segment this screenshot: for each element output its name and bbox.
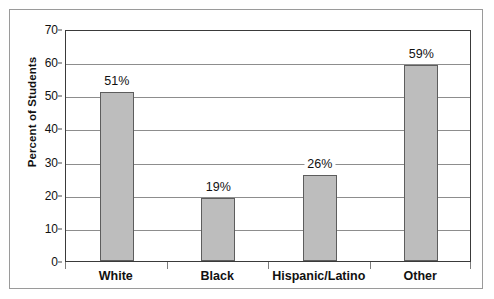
bar-value-label: 26% [304, 158, 335, 171]
x-axis-tick-mark [65, 262, 66, 269]
y-axis-tick-label: 50 [16, 89, 58, 103]
y-axis-tick-labels: 010203040506070 [10, 30, 58, 262]
x-axis-category-label: White [99, 269, 133, 283]
y-axis-tick-label: 0 [16, 255, 58, 269]
bar-slot: 26% [269, 31, 371, 261]
y-axis-tick-label: 20 [16, 189, 58, 203]
y-axis-tick-mark [58, 228, 62, 229]
plot-area: 51%19%26%59% [65, 30, 471, 262]
bar [100, 92, 134, 261]
y-axis-tick-mark [58, 262, 62, 263]
chart-figure: Percent of Students 010203040506070 51%1… [9, 9, 483, 289]
y-axis-tick-mark [58, 162, 62, 163]
bar-slot: 51% [66, 31, 168, 261]
bar [404, 65, 438, 261]
bar-value-label: 19% [203, 181, 234, 194]
y-axis-tick-mark [58, 129, 62, 130]
x-axis-category-labels: WhiteBlackHispanic/LatinoOther [65, 269, 471, 291]
y-axis-tick-label: 10 [16, 222, 58, 236]
bar-slot: 59% [371, 31, 473, 261]
y-axis-tick-label: 60 [16, 56, 58, 70]
bar [201, 198, 235, 261]
x-axis-category-label: Other [404, 269, 437, 283]
x-axis-category-label: Black [201, 269, 234, 283]
x-axis-tick-mark [370, 262, 371, 269]
y-axis-tick-mark [58, 30, 62, 31]
x-axis-tick-marks [65, 262, 471, 269]
bar-slot: 19% [168, 31, 270, 261]
x-axis-tick-mark [167, 262, 168, 269]
y-axis-tick-mark [58, 63, 62, 64]
y-axis-tick-label: 70 [16, 23, 58, 37]
y-axis-tick-mark [58, 96, 62, 97]
x-axis-tick-mark [470, 262, 471, 269]
y-axis-tick-label: 30 [16, 156, 58, 170]
y-axis-tick-mark [58, 195, 62, 196]
y-axis-tick-label: 40 [16, 122, 58, 136]
x-axis-category-label: Hispanic/Latino [272, 269, 365, 283]
bar-value-label: 51% [101, 75, 132, 88]
bar [303, 175, 337, 261]
x-axis-tick-mark [268, 262, 269, 269]
bar-value-label: 59% [406, 48, 437, 61]
